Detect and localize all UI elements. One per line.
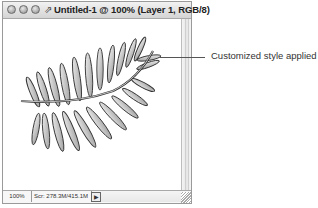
scratch-sizes: Scr: 278.3M/415.1M (31, 191, 92, 202)
callout-label: Customized style applied (211, 50, 317, 61)
status-bar: 100% Scr: 278.3M/415.1M ▶ (3, 190, 191, 203)
document-icon: ⇗ (44, 4, 52, 15)
window-title: Untitled-1 @ 100% (Layer 1, RGB/8) (54, 4, 210, 15)
document-window: ⇗ Untitled-1 @ 100% (Layer 1, RGB/8) (2, 1, 192, 204)
vertical-scrollbar[interactable] (181, 19, 191, 192)
close-button[interactable] (7, 5, 16, 14)
minimize-button[interactable] (19, 5, 28, 14)
zoom-button[interactable] (31, 5, 40, 14)
callout-line (160, 57, 205, 58)
status-menu-arrow-icon[interactable]: ▶ (91, 192, 101, 202)
title-bar[interactable]: ⇗ Untitled-1 @ 100% (Layer 1, RGB/8) (3, 2, 191, 19)
horizontal-scrollbar[interactable] (101, 191, 181, 202)
resize-handle[interactable] (181, 192, 191, 203)
zoom-level-field[interactable]: 100% (3, 191, 32, 202)
image-canvas[interactable] (3, 19, 181, 192)
fern-leaf-image (3, 19, 181, 192)
